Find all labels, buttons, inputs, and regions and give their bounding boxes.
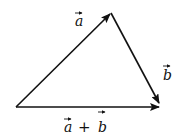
label-sum-b-text: b	[98, 119, 107, 135]
label-vector-b: b	[163, 66, 172, 83]
vector-addition-diagram: a b a + b	[0, 0, 182, 139]
label-a-text: a	[75, 13, 83, 29]
label-sum-plus-text: +	[78, 118, 91, 136]
label-b-text: b	[163, 67, 172, 83]
label-sum-a-text: a	[64, 119, 72, 135]
vector-a-arrow	[16, 14, 110, 107]
vector-b-arrow	[111, 13, 159, 103]
label-vector-a: a	[75, 13, 83, 29]
label-vector-sum: a + b	[64, 112, 107, 136]
